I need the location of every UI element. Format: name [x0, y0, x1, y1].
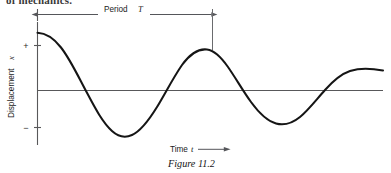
- damped-oscillation-curve: [38, 33, 384, 137]
- y-axis-title-symbol: x: [6, 56, 16, 61]
- period-label-symbol: T: [138, 4, 144, 14]
- axes-group: + −: [23, 22, 383, 145]
- y-axis-negative-label: −: [23, 123, 28, 133]
- y-axis-title-word: Displacement: [7, 68, 16, 118]
- period-annotation-group: Period T: [38, 4, 213, 51]
- y-axis-title-group: Displacement x: [6, 56, 16, 118]
- x-axis-title-group: Time t: [170, 144, 224, 154]
- figure-caption: Figure 11.2: [167, 158, 215, 169]
- damped-oscillation-plot: Period T + − Displacement x Time t: [0, 0, 391, 173]
- x-axis-title-word: Time: [170, 145, 188, 154]
- figure-container: of mechanics. Period T: [0, 0, 391, 173]
- period-label-word: Period: [104, 5, 128, 14]
- x-axis-title-symbol: t: [191, 144, 194, 154]
- y-axis-positive-label: +: [23, 41, 28, 51]
